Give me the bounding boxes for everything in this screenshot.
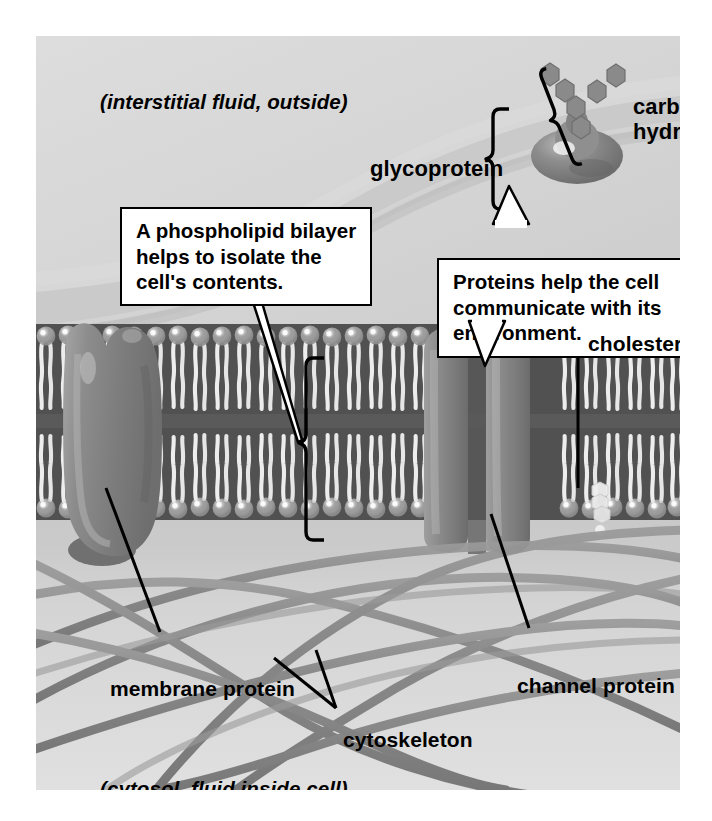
label-inside: (cytosol, fluid inside cell) bbox=[100, 777, 348, 790]
figure-page: A phospholipid bilayer helps to isolate … bbox=[0, 0, 712, 821]
membrane-protein-shape bbox=[63, 323, 162, 566]
channel-protein-shape bbox=[424, 324, 530, 554]
bilayer-callout-text: A phospholipid bilayer helps to isolate … bbox=[136, 218, 362, 295]
label-carbohydrate: carbo- hydrate bbox=[633, 94, 680, 144]
label-channel-protein: channel protein bbox=[517, 674, 675, 698]
label-outside: (interstitial fluid, outside) bbox=[100, 90, 348, 114]
label-membrane-protein: membrane protein bbox=[110, 677, 295, 701]
label-cholesterol: cholesterol bbox=[588, 332, 680, 356]
label-cytoskeleton: cytoskeleton bbox=[343, 728, 473, 752]
label-glycoprotein: glycoprotein bbox=[370, 156, 503, 182]
membrane-illustration: A phospholipid bilayer helps to isolate … bbox=[36, 36, 680, 790]
label-carbohydrate-line1: carbo- bbox=[633, 94, 680, 119]
bilayer-callout-box: A phospholipid bilayer helps to isolate … bbox=[120, 207, 372, 306]
label-carbohydrate-line2: hydrate bbox=[633, 119, 680, 144]
